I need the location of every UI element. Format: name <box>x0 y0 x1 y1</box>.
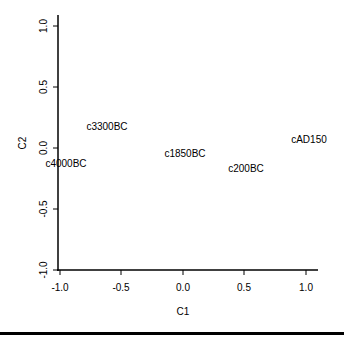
x-axis-tick-labels: -1.0 -0.5 0.0 0.5 1.0 <box>51 282 313 293</box>
y-axis-title: C2 <box>17 136 28 149</box>
x-tick-label: -1.0 <box>51 282 69 293</box>
y-tick-label: 1.0 <box>38 19 49 33</box>
y-tick-label: 0.5 <box>38 80 49 94</box>
point-labels: c3300BC c4000BC c1850BC c200BC cAD150 <box>45 121 327 174</box>
y-tick-label: -1.0 <box>38 261 49 279</box>
y-axis-tick-labels: 1.0 0.5 0.0 -0.5 -1.0 <box>38 19 49 279</box>
x-tick-label: 0.5 <box>237 282 251 293</box>
point-label-c3300bc: c3300BC <box>86 121 127 132</box>
y-tick-label: -0.5 <box>38 200 49 218</box>
scatter-plot: 1.0 0.5 0.0 -0.5 -1.0 -1.0 -0.5 0.0 0.5 … <box>0 0 344 344</box>
x-axis-title: C1 <box>177 306 190 317</box>
separator-rule <box>0 332 344 335</box>
point-label-c4000bc: c4000BC <box>45 158 86 169</box>
x-tick-label: -0.5 <box>112 282 130 293</box>
x-tick-label: 0.0 <box>176 282 190 293</box>
point-label-c1850bc: c1850BC <box>164 148 205 159</box>
point-label-cad150: cAD150 <box>291 134 327 145</box>
y-tick-label: 0.0 <box>38 141 49 155</box>
x-tick-label: 1.0 <box>299 282 313 293</box>
point-label-c200bc: c200BC <box>228 163 264 174</box>
